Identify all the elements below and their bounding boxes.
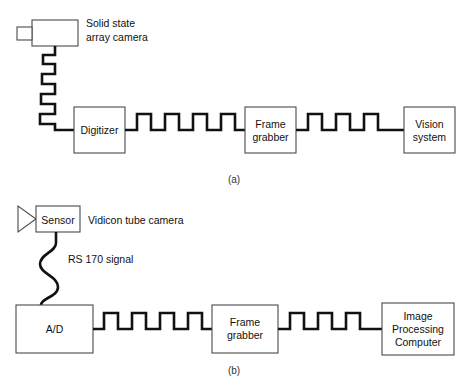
part-a-group: Solid state array camera Digitizer Frame… — [17, 17, 455, 185]
rs170-signal-label: RS 170 signal — [68, 253, 133, 265]
block-image-processing-computer-label-line2: Processing — [392, 323, 444, 335]
block-frame-grabber-a-label-line1: Frame — [255, 118, 285, 130]
square-wave-signal-icon-a1 — [125, 114, 245, 130]
vidicon-tube-camera-label: Vidicon tube camera — [88, 214, 184, 226]
caption-b: (b) — [228, 365, 240, 376]
vidicon-tube-camera-icon: Sensor — [18, 206, 80, 232]
block-image-processing-computer-label-line3: Computer — [395, 336, 442, 348]
figure-canvas: Solid state array camera Digitizer Frame… — [0, 0, 469, 383]
sensor-label: Sensor — [41, 214, 75, 226]
block-frame-grabber-b-label-line1: Frame — [230, 316, 260, 328]
square-wave-signal-icon-a2 — [296, 114, 404, 130]
block-image-processing-computer-label-line1: Image — [403, 310, 432, 322]
solid-state-camera-label-line2: array camera — [86, 31, 148, 43]
square-zigzag-cable-icon — [40, 46, 74, 130]
block-analog-to-digital[interactable]: A/D — [16, 305, 93, 353]
solid-state-camera-label-line1: Solid state — [86, 17, 135, 29]
caption-a: (a) — [228, 174, 240, 185]
block-frame-grabber-b[interactable]: Frame grabber — [212, 305, 278, 353]
block-vision-system[interactable]: Vision system — [404, 107, 455, 153]
block-digitizer-label: Digitizer — [81, 124, 119, 136]
block-frame-grabber-a-label-line2: grabber — [252, 131, 289, 143]
square-wave-signal-icon-b1 — [93, 313, 212, 329]
block-digitizer[interactable]: Digitizer — [74, 107, 125, 153]
block-analog-to-digital-label: A/D — [46, 323, 64, 335]
block-frame-grabber-b-label-line2: grabber — [227, 329, 264, 341]
sine-wave-cable-icon — [40, 232, 58, 305]
solid-state-camera-icon — [17, 20, 78, 46]
block-frame-grabber-a[interactable]: Frame grabber — [245, 107, 296, 153]
part-b-group: Sensor Vidicon tube camera RS 170 signal… — [16, 206, 454, 376]
block-vision-system-label-line1: Vision — [415, 118, 444, 130]
square-wave-signal-icon-b2 — [278, 313, 382, 329]
block-vision-system-label-line2: system — [413, 131, 447, 143]
block-image-processing-computer[interactable]: Image Processing Computer — [382, 303, 454, 355]
